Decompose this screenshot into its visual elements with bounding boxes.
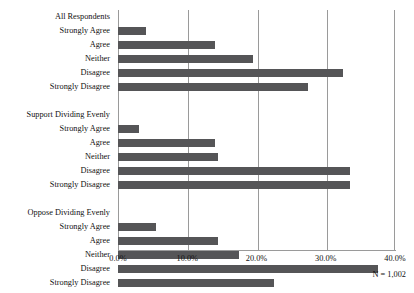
bar-row <box>118 24 395 38</box>
category-label: Strongly Disagree <box>0 80 114 94</box>
bar-row <box>118 38 395 52</box>
category-label: Disagree <box>0 66 114 80</box>
group-header-label: All Respondents <box>0 10 114 24</box>
bar <box>118 265 378 273</box>
category-label: Agree <box>0 136 114 150</box>
category-label: Strongly Agree <box>0 220 114 234</box>
bar-row <box>118 164 395 178</box>
bar-row <box>118 122 395 136</box>
bar-row <box>118 80 395 94</box>
bar <box>118 125 139 133</box>
bar <box>118 27 146 35</box>
category-label: Strongly Agree <box>0 122 114 136</box>
bar <box>118 279 274 287</box>
x-tick-label: 10.0% <box>157 254 217 263</box>
bar <box>118 223 156 231</box>
bar-row <box>118 178 395 192</box>
bar <box>118 181 350 189</box>
bar-row <box>118 220 395 234</box>
bar-row <box>118 136 395 150</box>
x-tick-label: 30.0% <box>296 254 356 263</box>
bar-row <box>118 234 395 248</box>
x-tick-label: 20.0% <box>227 254 287 263</box>
sample-size-annotation: N = 1,002 <box>373 270 407 279</box>
x-tick-label: 40.0% <box>365 254 414 263</box>
category-label: Disagree <box>0 262 114 276</box>
group-header-label: Support Dividing Evenly <box>0 108 114 122</box>
bar <box>118 69 343 77</box>
bar <box>118 153 218 161</box>
category-label: Disagree <box>0 164 114 178</box>
bar <box>118 55 253 63</box>
category-label: Agree <box>0 38 114 52</box>
category-label: Neither <box>0 150 114 164</box>
bar-row <box>118 276 395 290</box>
bar <box>118 167 350 175</box>
category-label: Neither <box>0 52 114 66</box>
bar-row <box>118 66 395 80</box>
bar-row <box>118 52 395 66</box>
category-label: Strongly Disagree <box>0 276 114 290</box>
category-label: Agree <box>0 234 114 248</box>
category-label: Strongly Disagree <box>0 178 114 192</box>
bar-row <box>118 262 395 276</box>
bar <box>118 139 215 147</box>
x-tick-label: 0.0% <box>88 254 148 263</box>
bar-chart: All RespondentsStrongly AgreeAgreeNeithe… <box>0 0 414 293</box>
category-label: Strongly Agree <box>0 24 114 38</box>
bar <box>118 237 218 245</box>
group-header-label: Oppose Dividing Evenly <box>0 206 114 220</box>
bar-row <box>118 150 395 164</box>
bar <box>118 83 308 91</box>
bar <box>118 41 215 49</box>
